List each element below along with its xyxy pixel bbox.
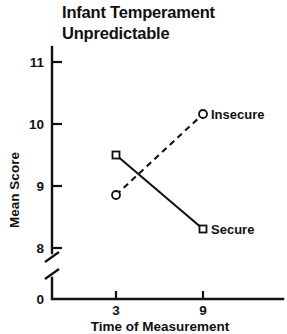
x-tick-label-9: 9 [199,303,207,318]
chart-plot-area: 11 10 9 8 0 Mean Score 3 9 Time of Measu… [0,0,287,334]
y-axis-lower-and-x-axis-line [52,278,283,299]
y-tick-label-9: 9 [36,179,44,194]
series-marker-secure-t3 [113,152,120,159]
x-tick-label-3: 3 [112,303,120,318]
x-axis-title: Time of Measurement [91,319,230,334]
series-line-secure [116,155,203,229]
series-marker-insecure-t3 [112,191,120,199]
series-line-insecure [116,114,203,195]
series-marker-insecure-t9 [199,110,207,118]
chart-figure: Infant Temperament Unpredictable 11 10 9… [0,0,287,334]
series-marker-secure-t9 [200,226,207,233]
y-tick-label-11: 11 [30,55,45,70]
y-axis-title: Mean Score [7,152,22,228]
series-label-secure: Secure [211,222,254,237]
y-tick-label-8: 8 [36,241,44,256]
series-label-insecure: Insecure [211,107,264,122]
y-tick-label-0: 0 [36,292,44,307]
y-tick-label-10: 10 [29,117,44,132]
